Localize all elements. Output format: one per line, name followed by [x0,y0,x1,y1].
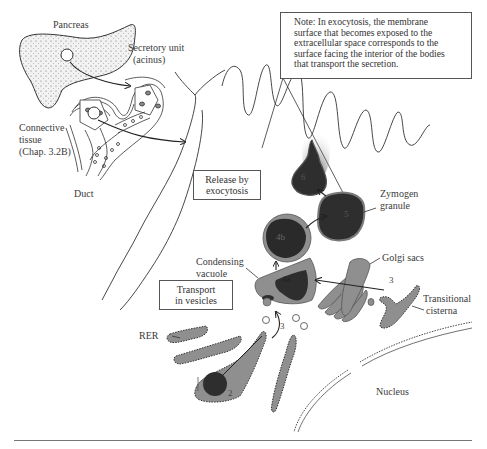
release-by-exocytosis-box: Release by exocytosis [193,170,261,200]
transitional-leader [412,306,424,310]
step-number-4b: 4b [276,232,285,242]
label-golgi-sacs: Golgi sacs [382,252,424,263]
release-box-line1: Release by [194,174,260,185]
pancreas-organ [20,25,136,108]
label-transitional-2: cisterna [426,305,457,316]
bottom-divider [14,440,472,441]
golgi-leader [370,258,380,264]
rough-er [167,326,296,412]
label-pancreas: Pancreas [53,19,89,30]
label-transitional-1: Transitional [423,293,471,304]
label-condensing-2: vacuole [196,268,227,279]
label-zymogen-2: granule [380,200,410,211]
vesicle-transport-arrow [272,312,279,338]
label-condensing-1: Condensing [196,256,244,267]
release-box-line2: exocytosis [194,185,260,196]
label-nucleus: Nucleus [376,386,409,397]
label-connective-3: (Chap. 3.2B) [19,146,71,157]
label-secretory-unit-1: Secretory unit [128,42,184,53]
label-rer: RER [139,330,158,341]
transport-vesicles [263,315,308,330]
granule-rer-synthesis [203,372,227,396]
transport-in-vesicles-box: Transport in vesicles [159,280,233,310]
label-secretory-unit-2: (acinus) [133,54,165,65]
acinus [66,77,165,180]
transport-box-line2: in vesicles [160,295,232,306]
step-number-5: 5 [344,209,349,219]
exocytosis-note-box: Note: In exocytosis, the membrane surfac… [280,12,472,79]
transport-box-line1: Transport [160,284,232,295]
step-number-1: 1 [201,378,206,388]
granule-6-exocytosis [292,124,330,195]
step-number-2: 2 [228,388,233,398]
step-number-3-vesicles: 3 [280,321,285,331]
label-duct: Duct [74,188,93,199]
golgi-sacs [318,259,374,322]
granule-4b [263,214,311,262]
label-zymogen-1: Zymogen [380,188,418,199]
label-connective-2: tissue [19,134,42,145]
nuclear-envelope [294,322,472,432]
label-connective-1: Connective [19,122,65,133]
step-number-4a: 4a [282,274,291,284]
step-number-6: 6 [301,172,306,182]
zymogen-leader [364,208,376,212]
condensing-leader [246,268,258,278]
step-number-3-golgi: 3 [389,275,394,285]
